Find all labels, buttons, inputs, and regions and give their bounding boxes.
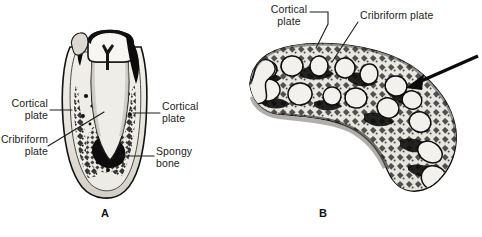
panel-a: Cortical plate Cribriform plate Cortical… xyxy=(0,0,241,237)
panel-a-letter: A xyxy=(101,207,109,219)
panel-b-letter: B xyxy=(319,207,327,219)
figure-root: Cortical plate Cribriform plate Cortical… xyxy=(0,0,482,237)
label-spongy-bone-right: Spongy bone xyxy=(156,146,216,169)
panel-b: Cortical plate Cribriform plate B xyxy=(241,0,482,237)
label-cortical-plate-right: Cortical plate xyxy=(162,101,222,124)
label-cribriform-plate-top: Cribriform plate xyxy=(360,10,460,22)
label-cribriform-plate-left: Cribriform plate xyxy=(0,134,48,157)
label-cortical-plate-top: Cortical plate xyxy=(261,4,317,27)
label-cortical-plate-left: Cortical plate xyxy=(2,98,48,121)
